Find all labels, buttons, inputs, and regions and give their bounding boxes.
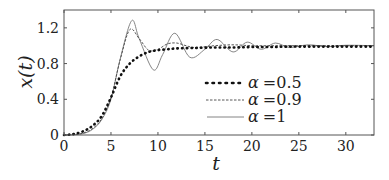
y-tick-label: 0.8 <box>37 56 59 72</box>
y-tick-label: 0.4 <box>37 91 59 107</box>
x-tick-label: 5 <box>107 138 116 154</box>
x-tick-label: 10 <box>149 138 167 154</box>
legend: α=0.5 α=0.9 α=1 <box>206 73 302 126</box>
x-tick-label: 30 <box>337 138 355 154</box>
x-tick-label: 0 <box>60 138 69 154</box>
plot-area <box>64 20 374 135</box>
chart: 05101520253000.40.81.2 t x(t) α=0.5 α=0.… <box>0 0 389 180</box>
plot-frame <box>64 10 374 135</box>
legend-label: α=1 <box>248 107 286 126</box>
legend-item: α=1 <box>207 107 286 126</box>
x-tick-label: 25 <box>290 138 308 154</box>
axis-ticks <box>64 10 374 135</box>
series-line <box>64 47 374 135</box>
y-tick-label: 1.2 <box>37 20 59 36</box>
tick-labels: 05101520253000.40.81.2 <box>37 20 355 154</box>
y-tick-label: 0 <box>50 127 59 143</box>
x-axis-label: t <box>212 152 220 174</box>
x-tick-label: 15 <box>196 138 214 154</box>
x-tick-label: 20 <box>243 138 261 154</box>
y-axis-label: x(t) <box>14 55 36 88</box>
series-line <box>64 20 374 135</box>
